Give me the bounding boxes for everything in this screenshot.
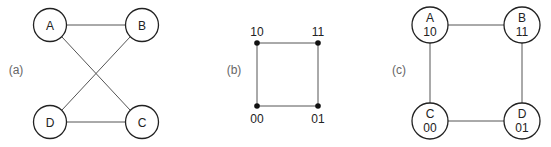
node-b: B xyxy=(126,9,159,42)
vertex-11 xyxy=(315,40,321,46)
vertex-00 xyxy=(254,103,260,109)
panel-label-b: (b) xyxy=(227,63,242,77)
svg-text:C: C xyxy=(426,107,435,121)
vertex-label-01: 01 xyxy=(311,112,325,126)
node-c-00: C 00 xyxy=(412,103,448,139)
panel-c: (c) A 10 B 11 C 00 D 01 xyxy=(392,7,540,139)
node-a-10: A 10 xyxy=(412,7,448,43)
svg-text:11: 11 xyxy=(516,25,529,39)
svg-text:A: A xyxy=(46,19,54,33)
vertex-10 xyxy=(254,40,260,46)
svg-text:00: 00 xyxy=(423,121,437,135)
panel-b: (b) 10 11 00 01 xyxy=(227,25,325,126)
svg-text:01: 01 xyxy=(515,121,529,135)
vertex-label-11: 11 xyxy=(312,25,325,39)
node-b-11: B 11 xyxy=(504,7,540,43)
diagram-canvas: (a) A B C D (b) 10 11 xyxy=(0,0,551,147)
vertex-label-10: 10 xyxy=(250,25,264,39)
panel-label-a: (a) xyxy=(9,63,24,77)
panel-a: (a) A B C D xyxy=(9,9,159,139)
node-d-01: D 01 xyxy=(504,103,540,139)
svg-text:D: D xyxy=(46,116,55,130)
panel-label-c: (c) xyxy=(392,63,406,77)
vertex-label-00: 00 xyxy=(250,112,264,126)
node-c: C xyxy=(126,106,159,139)
node-d: D xyxy=(34,106,67,139)
vertex-01 xyxy=(315,103,321,109)
svg-text:D: D xyxy=(518,107,527,121)
svg-text:10: 10 xyxy=(423,25,437,39)
svg-text:A: A xyxy=(426,11,434,25)
svg-text:C: C xyxy=(138,116,147,130)
svg-text:B: B xyxy=(138,19,146,33)
node-a: A xyxy=(34,9,67,42)
svg-text:B: B xyxy=(518,11,526,25)
